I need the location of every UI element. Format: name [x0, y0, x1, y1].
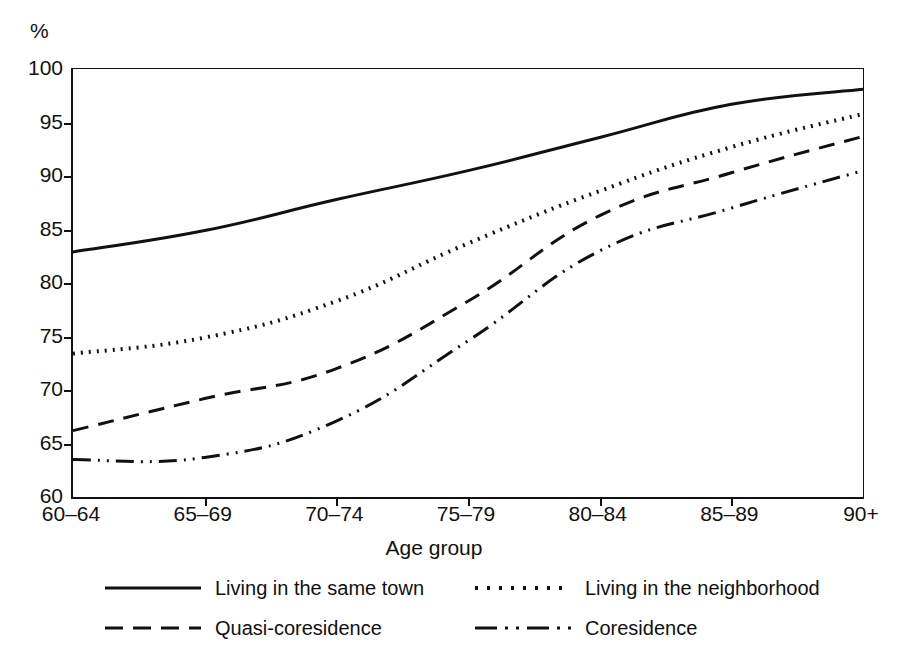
x-axis-tick-label: 90+: [843, 503, 879, 525]
x-axis-tick-label: 85–89: [700, 503, 758, 525]
legend-item-label: Coresidence: [585, 617, 697, 639]
y-axis-tick-label: 80: [17, 271, 63, 292]
x-axis-title: Age group: [0, 537, 904, 559]
chart-legend: Living in the same townLiving in the nei…: [0, 575, 904, 655]
legend-item-label: Living in the same town: [215, 577, 424, 599]
y-axis-tick-label: 70: [17, 378, 63, 399]
x-axis-tick-label: 80–84: [568, 503, 626, 525]
x-axis-tick-labels: 60–6465–6970–7475–7980–8485–8990+: [0, 503, 904, 533]
x-axis-tick-label: 65–69: [173, 503, 231, 525]
x-axis-tick-label: 70–74: [305, 503, 363, 525]
legend-item-label: Living in the neighborhood: [585, 577, 820, 599]
y-axis-tick-mark: [64, 123, 73, 125]
y-axis-tick-label: 65: [17, 432, 63, 453]
y-axis-tick-mark: [64, 176, 73, 178]
y-axis-tick-mark: [64, 444, 73, 446]
y-axis-tick-mark: [64, 230, 73, 232]
y-axis-tick-label: 85: [17, 218, 63, 239]
y-axis-tick-labels: 6065707580859095100: [8, 68, 63, 496]
legend-line-sample-icon: [105, 621, 201, 635]
y-axis-tick-mark: [64, 283, 73, 285]
series-lines-svg: [73, 69, 863, 497]
legend-item-label: Quasi-coresidence: [215, 617, 382, 639]
legend-item: Coresidence: [475, 615, 697, 641]
y-axis-tick-label: 75: [17, 325, 63, 346]
chart-figure: % 6065707580859095100 60–6465–6970–7475–…: [0, 0, 904, 660]
y-axis-tick-mark: [64, 337, 73, 339]
y-axis-tick-mark: [64, 390, 73, 392]
y-axis-tick-label: 90: [17, 164, 63, 185]
plot-area: [71, 68, 864, 499]
legend-item: Living in the same town: [105, 575, 424, 601]
y-axis-tick-label: 100: [17, 57, 63, 78]
legend-item: Quasi-coresidence: [105, 615, 382, 641]
legend-item: Living in the neighborhood: [475, 575, 820, 601]
x-axis-title-text: Age group: [386, 537, 483, 559]
series-line-1: [73, 89, 863, 252]
series-line-3: [73, 136, 863, 430]
x-axis-tick-label: 75–79: [437, 503, 495, 525]
series-line-4: [73, 171, 863, 462]
x-axis-tick-label: 60–64: [42, 503, 100, 525]
y-axis-tick-label: 95: [17, 111, 63, 132]
legend-line-sample-icon: [475, 621, 571, 635]
y-axis-unit-label: %: [30, 20, 49, 41]
legend-line-sample-icon: [475, 581, 571, 595]
legend-line-sample-icon: [105, 581, 201, 595]
